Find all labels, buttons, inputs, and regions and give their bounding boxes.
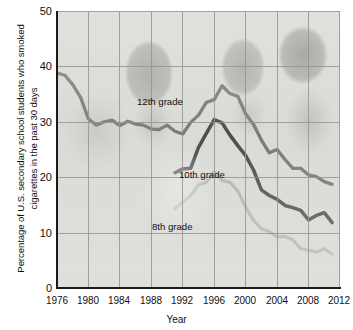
x-axis-title: Year xyxy=(0,314,353,325)
y-axis-title: Percentage of U.S. secondary school stud… xyxy=(15,4,40,294)
gridline-vertical xyxy=(277,11,278,288)
series-label-grade-10: 10th grade xyxy=(179,169,225,180)
x-tick-label: 2012 xyxy=(319,295,353,306)
chart-figure: Percentage of U.S. secondary school stud… xyxy=(0,0,353,330)
series-label-grade-8: 8th grade xyxy=(152,221,193,232)
gridline-horizontal xyxy=(57,11,340,12)
gridline-vertical xyxy=(151,11,152,288)
gridline-vertical xyxy=(245,11,246,288)
gridline-vertical xyxy=(119,11,120,288)
gridline-horizontal xyxy=(57,233,340,234)
gridline-vertical xyxy=(182,11,183,288)
gridline-vertical xyxy=(88,11,89,288)
gridline-vertical xyxy=(308,11,309,288)
gridline-vertical xyxy=(214,11,215,288)
y-axis-title-container: Percentage of U.S. secondary school stud… xyxy=(0,0,36,300)
y-axis-line xyxy=(56,11,58,289)
gridline-horizontal xyxy=(57,66,340,67)
gridline-vertical xyxy=(339,11,340,288)
x-axis-line xyxy=(56,287,341,289)
gridlines xyxy=(57,11,340,288)
gridline-horizontal xyxy=(57,122,340,123)
plot-area: 12th grade 10th grade 8th grade xyxy=(57,11,340,288)
series-label-grade-12: 12th grade xyxy=(137,96,183,107)
